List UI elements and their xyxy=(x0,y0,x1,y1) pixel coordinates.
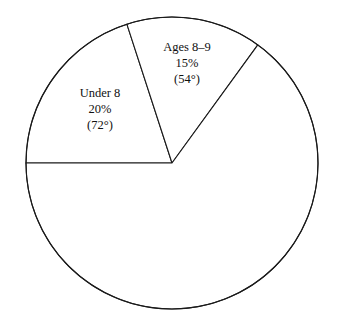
slice-label-under-8-name: Under 8 xyxy=(47,85,153,101)
slice-label-ages-8-9-percent: 15% xyxy=(139,55,235,71)
slice-label-under-8: Under 8 20% (72°) xyxy=(47,85,153,133)
slice-label-ages-8-9-degrees: (54°) xyxy=(139,71,235,87)
pie-chart-figure: Under 8 20% (72°) Ages 8–9 15% (54°) xyxy=(0,0,338,327)
slice-label-under-8-degrees: (72°) xyxy=(47,117,153,133)
slice-label-ages-8-9: Ages 8–9 15% (54°) xyxy=(139,39,235,87)
slice-label-ages-8-9-name: Ages 8–9 xyxy=(139,39,235,55)
slice-label-under-8-percent: 20% xyxy=(47,101,153,117)
